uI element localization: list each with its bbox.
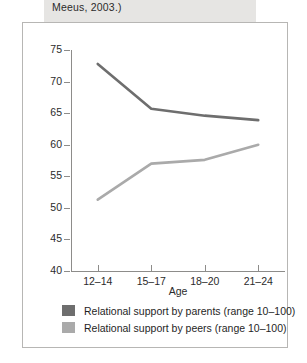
x-axis-tick-mark xyxy=(151,265,152,271)
y-axis-tick-label: 45 xyxy=(50,232,62,244)
legend-swatch xyxy=(62,305,75,316)
legend-item: Relational support by parents (range 10–… xyxy=(62,302,282,319)
legend-label: Relational support by peers (range 10–10… xyxy=(84,322,287,334)
y-axis-tick-mark xyxy=(64,271,70,272)
legend-label: Relational support by parents (range 10–… xyxy=(84,305,295,317)
x-axis-line xyxy=(71,271,285,272)
chart-legend: Relational support by parents (range 10–… xyxy=(62,302,282,336)
y-axis-tick-mark xyxy=(64,239,70,240)
x-axis-tick-mark xyxy=(258,265,259,271)
y-axis-tick-label: 55 xyxy=(50,169,62,181)
y-axis-tick-label: 40 xyxy=(50,264,62,276)
y-axis-tick-label: 65 xyxy=(50,106,62,118)
figure-frame xyxy=(22,22,288,348)
y-axis-tick-label: 60 xyxy=(50,138,62,150)
y-axis-tick-mark xyxy=(64,50,70,51)
x-axis-label: Age xyxy=(71,285,285,297)
legend-swatch xyxy=(62,322,75,333)
figure-caption-strip: Meeus, 2003.) xyxy=(0,0,307,22)
x-axis-tick-mark xyxy=(205,265,206,271)
y-axis-tick-label: 50 xyxy=(50,201,62,213)
y-axis-line xyxy=(71,50,72,272)
y-axis-tick-mark xyxy=(64,113,70,114)
legend-item: Relational support by peers (range 10–10… xyxy=(62,319,282,336)
caption-text: Meeus, 2003.) xyxy=(52,1,122,13)
y-axis-tick-mark xyxy=(64,82,70,83)
x-axis-tick-mark xyxy=(98,265,99,271)
y-axis-tick-mark xyxy=(64,176,70,177)
y-axis-tick-label: 75 xyxy=(50,43,62,55)
y-axis-tick-label: 70 xyxy=(50,75,62,87)
y-axis-tick-mark xyxy=(64,145,70,146)
y-axis-tick-mark xyxy=(64,208,70,209)
